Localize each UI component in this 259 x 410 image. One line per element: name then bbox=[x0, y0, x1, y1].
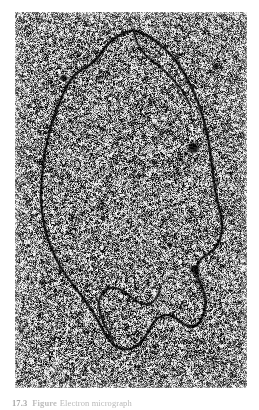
figure-root: 17.3FigureElectron micrograph bbox=[0, 0, 259, 410]
caption-lead-word: Figure bbox=[32, 398, 57, 408]
caption-figure-number: 17.3 bbox=[12, 398, 27, 408]
figure-caption: 17.3FigureElectron micrograph bbox=[12, 398, 252, 410]
electron-micrograph-plate bbox=[15, 12, 247, 388]
caption-line: 17.3FigureElectron micrograph bbox=[12, 398, 252, 409]
micrograph-image bbox=[15, 12, 247, 388]
caption-body-text: Electron micrograph bbox=[60, 398, 132, 408]
